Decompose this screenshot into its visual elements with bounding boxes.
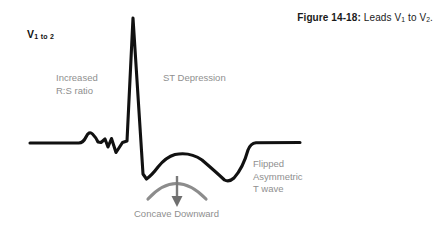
caption-period: . (430, 12, 433, 23)
annotation-increased-rs-ratio: Increased R:S ratio (56, 72, 98, 97)
figure-caption: Figure 14-18:Leads V1 to V2. (297, 12, 433, 23)
annotation-st-depression: ST Depression (163, 72, 226, 85)
ecg-figure: Figure 14-18:Leads V1 to V2. V1 to 2 Inc… (0, 0, 441, 240)
lead-subscript: 1 to 2 (34, 33, 54, 40)
caption-leads-text: Leads V (364, 12, 401, 23)
figure-caption-label: Figure 14-18: (297, 12, 361, 23)
down-arrow-icon (172, 176, 183, 207)
ecg-waveform-trace (30, 18, 300, 181)
annotation-concave-downward: Concave Downward (134, 208, 219, 221)
caption-to-text: to V (405, 12, 426, 23)
figure-caption-text: Leads V1 to V2. (364, 12, 433, 23)
lead-label: V1 to 2 (27, 28, 54, 40)
annotation-flipped-asymmetric-t-wave: Flipped Asymmetric T wave (253, 158, 303, 196)
ecg-diagram-svg (0, 0, 441, 240)
